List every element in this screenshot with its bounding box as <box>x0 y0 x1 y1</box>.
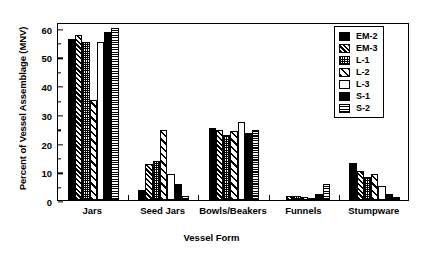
legend-swatch-icon <box>339 32 350 41</box>
bar <box>315 194 322 200</box>
legend-label: S-1 <box>356 92 370 101</box>
legend-item-l-3: L-3 <box>339 78 378 90</box>
bar <box>223 135 230 200</box>
bar <box>216 130 223 200</box>
y-tick-mark-minor <box>58 130 61 131</box>
bar <box>349 163 356 200</box>
y-tick-label: 0 <box>22 197 58 208</box>
legend-label: S-2 <box>356 104 370 113</box>
y-tick-mark-minor <box>58 187 61 188</box>
y-tick-mark-minor <box>58 158 61 159</box>
bar <box>138 190 145 200</box>
y-tick-label: 10 <box>22 168 58 179</box>
bar <box>182 196 189 200</box>
bar <box>371 174 378 200</box>
bar <box>293 196 300 200</box>
legend-item-em-3: EM-3 <box>339 42 378 54</box>
bar <box>308 198 315 200</box>
bar <box>364 177 371 200</box>
x-tick-mark <box>269 195 270 200</box>
x-tick-mark <box>128 195 129 200</box>
legend-swatch-icon <box>339 68 350 77</box>
x-group-label-jars: Jars <box>82 205 102 216</box>
bar <box>75 35 82 200</box>
y-tick-mark-minor <box>58 43 61 44</box>
x-group-label-bowls-beakers: Bowls/Beakers <box>199 205 267 216</box>
y-tick-label: 50 <box>22 53 58 64</box>
bar <box>386 194 393 200</box>
y-tick-mark <box>58 29 63 30</box>
bar <box>97 42 104 200</box>
legend-item-s-1: S-1 <box>339 90 378 102</box>
bar <box>68 39 75 200</box>
y-tick-label: 60 <box>22 24 58 35</box>
x-tick-mark <box>339 195 340 200</box>
x-group-label-seed-jars: Seed Jars <box>140 205 185 216</box>
bar <box>378 186 385 200</box>
y-tick-mark <box>58 58 63 59</box>
legend-label: EM-2 <box>356 32 378 41</box>
legend-label: EM-3 <box>356 44 378 53</box>
bar <box>175 184 182 200</box>
y-tick-mark <box>58 201 63 202</box>
bar <box>104 32 111 200</box>
bar <box>301 197 308 200</box>
bar <box>230 131 237 200</box>
bar <box>167 174 174 200</box>
y-tick-label: 20 <box>22 139 58 150</box>
bar <box>145 164 152 200</box>
bar <box>393 197 400 200</box>
bar <box>82 42 89 200</box>
bar <box>111 28 118 200</box>
y-tick-label: 30 <box>22 110 58 121</box>
y-tick-mark-minor <box>58 72 61 73</box>
legend-swatch-icon <box>339 56 350 65</box>
legend-label: L-1 <box>356 56 370 65</box>
bar <box>323 184 330 200</box>
legend-swatch-icon <box>339 92 350 101</box>
x-group-label-stumpware: Stumpware <box>348 205 399 216</box>
y-tick-mark <box>58 144 63 145</box>
bar <box>286 196 293 200</box>
legend-swatch-icon <box>339 80 350 89</box>
bar-chart-figure: Percent of Vessel Assemblage (MNV) 01020… <box>0 0 423 257</box>
legend-swatch-icon <box>339 104 350 113</box>
y-tick-mark-minor <box>58 101 61 102</box>
x-axis-title: Vessel Form <box>0 232 423 243</box>
legend-label: L-3 <box>356 80 370 89</box>
x-group-label-funnels: Funnels <box>285 205 321 216</box>
y-tick-mark <box>58 115 63 116</box>
legend-label: L-2 <box>356 68 370 77</box>
bar <box>153 161 160 200</box>
x-tick-mark <box>198 195 199 200</box>
y-tick-mark <box>58 173 63 174</box>
chart-legend: EM-2EM-3L-1L-2L-3S-1S-2 <box>334 26 384 118</box>
bar <box>245 133 252 200</box>
bar <box>357 171 364 200</box>
bar <box>209 128 216 200</box>
y-tick-mark <box>58 87 63 88</box>
bar <box>252 130 259 200</box>
bar <box>238 122 245 200</box>
legend-swatch-icon <box>339 44 350 53</box>
legend-item-l-1: L-1 <box>339 54 378 66</box>
bar <box>90 100 97 200</box>
legend-item-l-2: L-2 <box>339 66 378 78</box>
bar <box>160 130 167 200</box>
legend-item-em-2: EM-2 <box>339 30 378 42</box>
legend-item-s-2: S-2 <box>339 102 378 114</box>
y-tick-label: 40 <box>22 82 58 93</box>
